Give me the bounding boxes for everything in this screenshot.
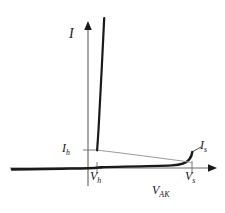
curves-group [12,18,192,169]
y-axis-arrowhead [84,21,92,30]
thyristor-iv-characteristic-figure: I Ih Vh Is Vs VAK [0,0,225,213]
x-axis-arrowhead [208,164,217,172]
switching-current-label: Is [200,139,207,151]
holding-voltage-label: Vh [90,170,102,182]
voltage-axis-label: VAK [152,184,170,196]
switching-current-subscript: s [204,145,207,154]
switching-voltage-label: Vs [185,170,196,182]
holding-voltage-subscript: h [97,176,101,185]
forward-blocking-branch [101,152,192,167]
holding-current-subscript: h [66,148,70,157]
switching-voltage-subscript: s [192,176,195,185]
current-axis-label: I [69,27,74,41]
voltage-axis-subscript: AK [159,190,170,199]
on-state-branch [97,18,104,150]
negative-resistance-branch [97,150,192,163]
holding-current-label: Ih [62,142,70,154]
